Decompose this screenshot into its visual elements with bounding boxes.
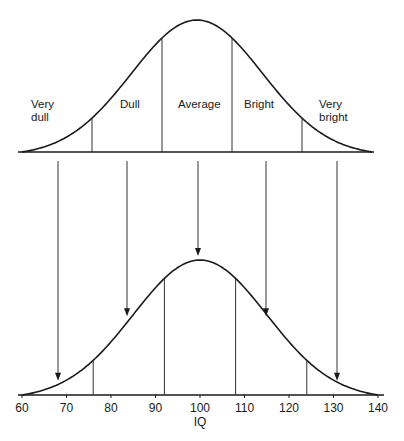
category-label: Very <box>31 98 54 110</box>
arrow-head-icon <box>55 373 61 381</box>
x-tick-label: 120 <box>279 401 299 415</box>
category-label: Average <box>178 98 221 110</box>
x-tick-label: 90 <box>149 401 163 415</box>
chart-canvas: VerydullDullAverageBrightVerybright 6070… <box>0 0 404 441</box>
top-category-curve: VerydullDullAverageBrightVerybright <box>18 20 374 152</box>
x-tick-label: 60 <box>15 401 29 415</box>
arrow-head-icon <box>195 248 201 256</box>
category-label: Dull <box>120 98 140 110</box>
x-axis-label: IQ <box>194 415 207 429</box>
bottom-normal-curve <box>22 260 378 395</box>
x-tick-label: 100 <box>190 401 210 415</box>
iq-distribution-figure: VerydullDullAverageBrightVerybright 6070… <box>0 0 404 441</box>
arrow-head-icon <box>124 308 130 316</box>
category-label: Bright <box>244 98 275 110</box>
category-label: Very <box>319 98 342 110</box>
category-label: dull <box>31 111 49 123</box>
mapping-arrows <box>55 161 340 381</box>
x-tick-label: 130 <box>323 401 343 415</box>
arrow-head-icon <box>334 373 340 381</box>
category-label: bright <box>319 111 349 123</box>
x-tick-label: 110 <box>235 401 254 415</box>
top-normal-curve <box>22 20 372 152</box>
x-tick-label: 70 <box>60 401 74 415</box>
bottom-iq-curve <box>18 260 384 395</box>
x-tick-label: 140 <box>368 401 388 415</box>
x-axis: 60708090100110120130140IQ <box>15 395 388 429</box>
x-tick-label: 80 <box>104 401 118 415</box>
